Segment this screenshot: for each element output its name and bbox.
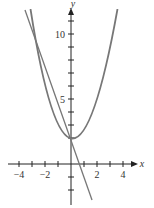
function-graph: −4 −2 2 4 x 10	[0, 0, 154, 208]
x-axis-arrow-icon	[131, 161, 138, 167]
parabola-curve	[31, 9, 118, 139]
x-tick-label-neg2: −2	[40, 169, 51, 180]
x-tick-label-neg4: −4	[14, 169, 25, 180]
x-tick-label-2: 2	[95, 169, 100, 180]
y-axis-arrow-icon	[68, 8, 74, 15]
x-tick-label-4: 4	[121, 169, 126, 180]
y-tick-label-5: 5	[60, 94, 65, 105]
y-tick-label-10: 10	[55, 29, 65, 40]
x-axis-label: x	[139, 158, 145, 169]
y-axis-label: y	[70, 0, 76, 9]
x-axis: −4 −2 2 4 x	[8, 158, 145, 180]
